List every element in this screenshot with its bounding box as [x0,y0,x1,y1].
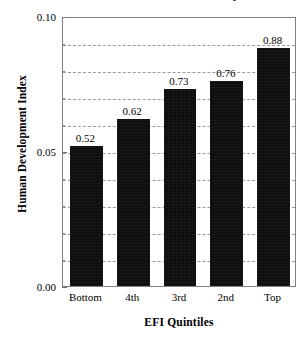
bar [70,146,103,286]
y-axis-minor-tick [62,260,65,261]
x-axis-tick-label: Bottom [62,292,109,303]
y-axis-minor-tick [62,179,65,180]
y-axis-title: Human Development Index [16,9,28,279]
y-axis-minor-tick [62,98,65,99]
bar [164,89,197,286]
x-axis-tick-label: 2nd [202,292,249,303]
bar-value-label: 0.73 [156,76,203,87]
bar-value-label: 0.88 [249,35,296,46]
x-axis-title: EFI Quintiles [62,316,296,328]
x-axis-tick-label: 3rd [156,292,203,303]
bar-value-label: 0.62 [109,106,156,117]
chart-title-clipped: Economic Freedom and Human Development [0,0,306,3]
bar-value-label: 0.52 [62,133,109,144]
x-axis-tick-label: Top [249,292,296,303]
y-axis-tick [62,17,67,18]
y-axis-minor-tick [62,206,65,207]
bar-value-label: 0.76 [202,68,249,79]
y-axis-minor-tick [62,44,65,45]
x-axis-tick-label: 4th [109,292,156,303]
bar [210,81,243,286]
y-axis-minor-tick [62,125,65,126]
y-axis-minor-tick [62,233,65,234]
bar [257,48,290,286]
y-axis-tick [62,152,67,153]
y-axis-tick-label: 0.05 [12,147,56,158]
y-axis-tick [62,287,67,288]
chart-title: Economic Freedom and Human Development [0,0,306,1]
y-axis-tick-label: 0.10 [12,12,56,23]
bar [117,119,150,286]
y-axis-minor-tick [62,71,65,72]
plot-area [62,17,296,287]
y-axis-tick-label: 0.00 [12,282,56,293]
bar-chart-figure: Economic Freedom and Human Development H… [0,0,306,340]
